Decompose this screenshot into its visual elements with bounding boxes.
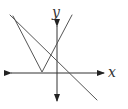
absolute-value-v-curve [13, 15, 72, 72]
function-graph-diagram: x y [0, 0, 128, 109]
x-axis-label: x [108, 64, 116, 80]
y-axis-label: y [51, 4, 61, 20]
descending-line [10, 15, 97, 100]
